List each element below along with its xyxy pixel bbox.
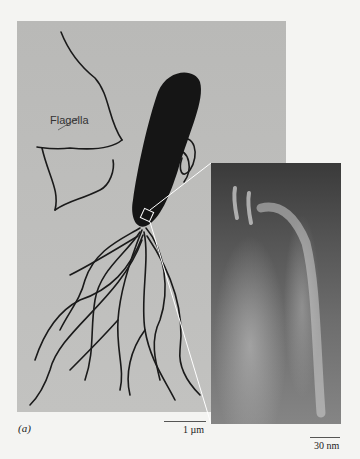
scale-label-1um: 1 µm bbox=[183, 424, 204, 435]
inset-micrograph bbox=[211, 163, 341, 424]
scale-bar-30nm bbox=[310, 437, 340, 438]
flagella-label: Flagella bbox=[50, 114, 89, 126]
figure: Flagella (a) 1 µm 30 nm bbox=[0, 0, 360, 459]
panel-label: (a) bbox=[18, 422, 31, 434]
scale-bar-1um bbox=[164, 421, 206, 422]
scale-label-30nm: 30 nm bbox=[314, 440, 339, 451]
cell-body bbox=[132, 73, 201, 227]
